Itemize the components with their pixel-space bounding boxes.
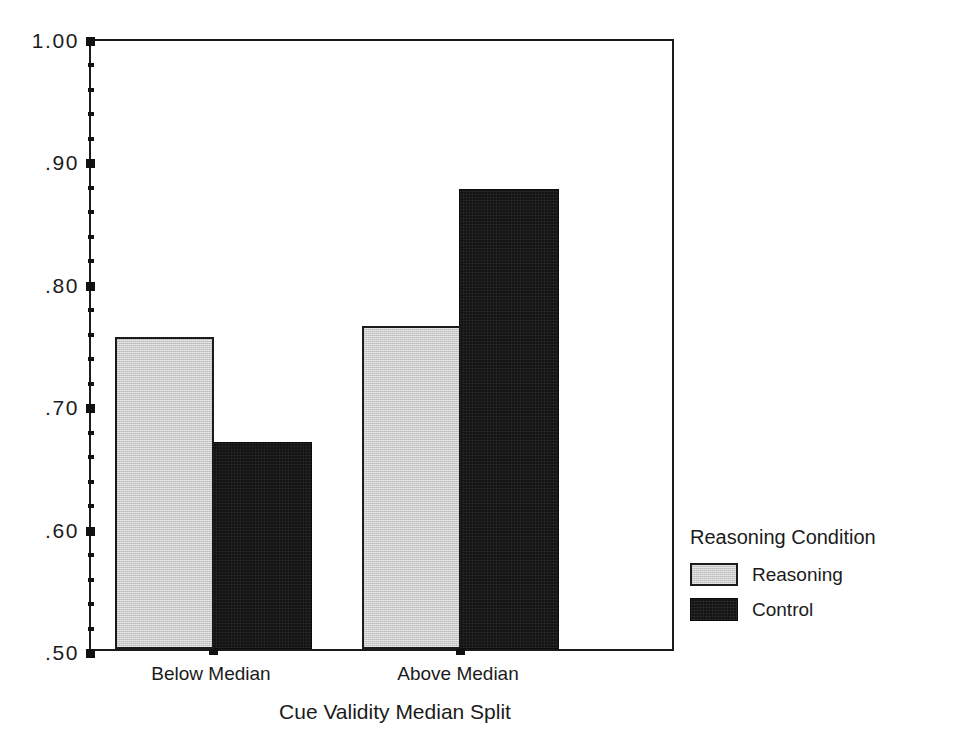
y-axis-tick-minor (88, 333, 94, 337)
bar-reasoning-above-median (362, 326, 461, 649)
bar-chart-figure: .50.60.70.80.901.00 Below MedianAbove Me… (0, 0, 958, 743)
y-axis-tick-major (86, 282, 95, 291)
x-axis-category-label: Above Median (397, 663, 518, 685)
y-axis-tick-minor (88, 63, 94, 67)
legend-item-reasoning[interactable]: Reasoning (690, 563, 952, 586)
y-axis-tick-label: .70 (45, 396, 79, 420)
bar-control-above-median (459, 189, 559, 649)
y-axis-tick-minor (88, 235, 94, 239)
legend-item-control[interactable]: Control (690, 598, 952, 621)
plot-area: .50.60.70.80.901.00 (89, 39, 674, 651)
y-axis-tick-minor (88, 357, 94, 361)
y-axis-tick-minor (88, 504, 94, 508)
bar-reasoning-below-median (115, 337, 214, 649)
y-axis-tick-minor (88, 308, 94, 312)
y-axis-tick-minor (88, 137, 94, 141)
y-axis-tick-minor (88, 259, 94, 263)
y-axis-tick-major (86, 37, 95, 46)
y-axis-tick-label: .90 (45, 151, 79, 175)
y-axis-tick-minor (88, 88, 94, 92)
x-axis-category-label: Below Median (151, 663, 270, 685)
bar-control-below-median (212, 442, 312, 649)
y-axis-tick-major (86, 159, 95, 168)
y-axis-tick-minor (88, 602, 94, 606)
y-axis-tick-major (86, 527, 95, 536)
y-axis-tick-major (86, 649, 95, 658)
y-axis-tick-label: .60 (45, 519, 79, 543)
y-axis-tick-minor (88, 186, 94, 190)
y-axis-tick-label: 1.00 (32, 29, 79, 53)
y-axis-tick-minor (88, 382, 94, 386)
y-axis-tick-minor (88, 112, 94, 116)
y-axis-tick-minor (88, 210, 94, 214)
y-axis-tick-major (86, 404, 95, 413)
y-axis-tick-minor (88, 553, 94, 557)
legend: Reasoning Condition ReasoningControl (690, 526, 952, 633)
y-axis-tick-minor (88, 627, 94, 631)
legend-entries: ReasoningControl (690, 563, 952, 621)
x-axis-title: Cue Validity Median Split (0, 700, 790, 724)
y-axis-tick-minor (88, 455, 94, 459)
y-axis-tick-label: .50 (45, 641, 79, 665)
legend-label: Reasoning (752, 564, 843, 586)
y-axis-tick-label: .80 (45, 274, 79, 298)
y-axis-tick-minor (88, 578, 94, 582)
legend-swatch-control (690, 598, 738, 621)
legend-label: Control (752, 599, 813, 621)
legend-title: Reasoning Condition (690, 526, 952, 549)
y-axis-tick-minor (88, 480, 94, 484)
y-axis-tick-minor (88, 431, 94, 435)
legend-swatch-reasoning (690, 563, 738, 586)
